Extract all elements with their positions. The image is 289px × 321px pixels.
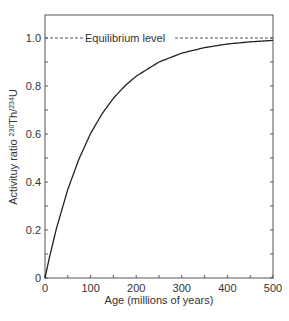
ingrowth-curve [45,40,273,278]
y-tick-label: 1.0 [26,32,41,44]
y-tick-label: 0.8 [26,80,41,92]
plot-frame [45,15,273,278]
x-tick-label: 200 [127,282,145,294]
tick-labels: 010020030040050000.20.40.60.81.0 [26,32,282,294]
y-tick-label: 0 [35,272,41,284]
y-tick-label: 0.6 [26,128,41,140]
y-axis-label: Activituy ratio 230Th/234U [7,89,19,205]
x-tick-label: 500 [264,282,282,294]
plot-area [45,15,273,278]
y-tick-label: 0.2 [26,224,41,236]
x-tick-label: 400 [218,282,236,294]
x-axis-label: Age (millions of years) [105,294,214,306]
equilibrium-label: Equilibrium level [85,32,165,44]
y-tick-label: 0.4 [26,176,41,188]
chart: 010020030040050000.20.40.60.81.0 Equilib… [0,0,289,321]
x-tick-label: 0 [42,282,48,294]
x-tick-label: 100 [81,282,99,294]
x-tick-label: 300 [173,282,191,294]
